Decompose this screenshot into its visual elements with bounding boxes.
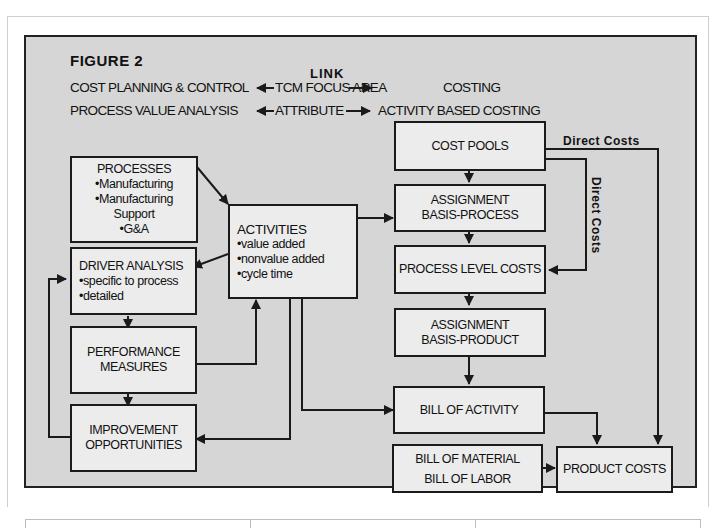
driver-analysis-item: specific to process xyxy=(79,274,178,289)
cost-pools-box: COST POOLS xyxy=(394,121,546,171)
bill-of-material-line: BILL OF MATERIAL xyxy=(415,449,520,469)
process-level-costs-label: PROCESS LEVEL COSTS xyxy=(399,262,541,277)
assignment-basis-process-box: ASSIGNMENT BASIS-PROCESS xyxy=(394,184,546,232)
driver-analysis-box: DRIVER ANALYSIS specific to process deta… xyxy=(70,247,197,315)
direct-costs-label-horizontal: Direct Costs xyxy=(563,134,640,148)
assignment-process-line: ASSIGNMENT xyxy=(431,193,510,208)
driver-analysis-title: DRIVER ANALYSIS xyxy=(79,259,183,274)
bill-of-activity-box: BILL OF ACTIVITY xyxy=(393,386,545,434)
header-middle-2: ATTRIBUTE xyxy=(275,103,344,118)
processes-item-continued: Support xyxy=(114,207,155,222)
bottom-table-rule xyxy=(25,519,700,520)
assignment-product-line: ASSIGNMENT xyxy=(431,318,510,333)
header-right-1: COSTING xyxy=(443,80,500,95)
bottom-table-divider xyxy=(475,519,476,528)
improvement-opportunities-line: OPPORTUNITIES xyxy=(85,438,182,453)
assignment-basis-product-box: ASSIGNMENT BASIS-PRODUCT xyxy=(394,308,546,357)
activities-item: cycle time xyxy=(237,267,293,282)
processes-item: Manufacturing xyxy=(95,177,173,192)
improvement-opportunities-box: IMPROVEMENT OPPORTUNITIES xyxy=(70,404,197,472)
performance-measures-line: MEASURES xyxy=(100,360,167,375)
link-header: LINK xyxy=(310,66,344,81)
header-middle-1: TCM FOCUS AREA xyxy=(275,80,387,95)
assignment-product-line: BASIS-PRODUCT xyxy=(421,333,519,348)
bill-of-material-labor-box: BILL OF MATERIAL BILL OF LABOR xyxy=(392,444,543,493)
processes-item: G&A xyxy=(119,222,148,237)
bottom-table-divider xyxy=(25,519,26,528)
activities-item: value added xyxy=(237,237,305,252)
bottom-table-divider xyxy=(700,519,701,528)
bill-of-activity-label: BILL OF ACTIVITY xyxy=(420,403,519,418)
bottom-table-divider xyxy=(250,519,251,528)
driver-analysis-item: detailed xyxy=(79,289,124,304)
product-costs-box: PRODUCT COSTS xyxy=(556,446,673,493)
bill-of-labor-line: BILL OF LABOR xyxy=(424,469,511,489)
performance-measures-line: PERFORMANCE xyxy=(87,345,180,360)
activities-item: nonvalue added xyxy=(237,252,324,267)
direct-costs-label-vertical: Direct Costs xyxy=(589,177,603,254)
header-left-1: COST PLANNING & CONTROL xyxy=(70,80,249,95)
process-level-costs-box: PROCESS LEVEL COSTS xyxy=(394,245,546,294)
figure-title: FIGURE 2 xyxy=(70,52,143,69)
product-costs-label: PRODUCT COSTS xyxy=(563,462,666,477)
improvement-opportunities-line: IMPROVEMENT xyxy=(89,423,178,438)
performance-measures-box: PERFORMANCE MEASURES xyxy=(70,326,197,394)
processes-item: Manufacturing xyxy=(95,192,173,207)
processes-title: PROCESSES xyxy=(97,162,171,177)
cost-pools-label: COST POOLS xyxy=(431,139,508,154)
header-left-2: PROCESS VALUE ANALYSIS xyxy=(70,103,238,118)
assignment-process-line: BASIS-PROCESS xyxy=(422,208,519,223)
header-right-2: ACTIVITY BASED COSTING xyxy=(378,103,540,118)
activities-title: ACTIVITIES xyxy=(237,222,307,237)
processes-box: PROCESSES Manufacturing Manufacturing Su… xyxy=(70,156,198,243)
activities-box: ACTIVITIES value added nonvalue added cy… xyxy=(228,204,358,299)
